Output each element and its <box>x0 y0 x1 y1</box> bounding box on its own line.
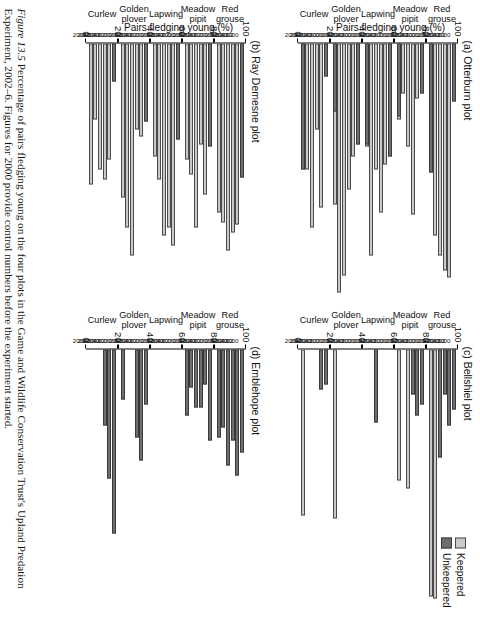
y-tick-c-100 <box>457 344 458 348</box>
bar-c-lapwing-2004-unkeepered <box>374 349 378 422</box>
group-separator-c-4 <box>426 344 427 348</box>
year-label-a-0-2006: 2006 <box>285 30 299 37</box>
group-label-b-red-grouse: Red grouse <box>216 4 244 23</box>
bar-a-meadow-pipit-2002-keepered <box>415 43 419 98</box>
group-label-a-curlew: Curlew <box>300 9 329 19</box>
year-label-d-2-2006: 2006 <box>137 336 151 343</box>
y-tick-a-0 <box>297 38 298 42</box>
group-separator-d-1 <box>118 344 119 348</box>
bar-a-red-grouse-2002-keepered <box>447 43 451 277</box>
bar-c-meadow-pipit-2006-keepered <box>397 349 401 480</box>
bar-b-curlew-2002-keepered <box>107 43 111 159</box>
group-label-a-lapwing: Lapwing <box>361 9 395 19</box>
bar-b-lapwing-2004-keepered <box>162 43 166 235</box>
legend: Keepered Unkeepered <box>438 537 466 607</box>
bar-b-golden-plover-2006-keepered <box>121 43 125 197</box>
y-tick-c-0 <box>297 344 298 348</box>
group-label-d-lapwing: Lapwing <box>149 315 183 325</box>
bar-a-curlew-2000-unkeepered <box>324 43 328 76</box>
group-separator-b-3 <box>182 38 183 42</box>
bar-c-red-grouse-2000-unkeepered <box>452 349 456 409</box>
bar-b-red-grouse-2006-keepered <box>217 43 221 212</box>
bar-a-golden-plover-2005-keepered <box>337 43 341 292</box>
bar-b-lapwing-2000-unkeepered <box>176 43 180 139</box>
panel-title-c: (c) Bellshiel plot <box>462 346 474 420</box>
bar-b-golden-plover-2003-keepered <box>135 43 139 129</box>
bar-d-meadow-pipit-2000-unkeepered <box>208 349 212 440</box>
bar-a-lapwing-2004-keepered <box>374 43 378 169</box>
bar-c-curlew-2000-unkeepered <box>324 349 328 384</box>
bar-b-golden-plover-2002-keepered <box>139 43 143 136</box>
group-label-b-lapwing: Lapwing <box>149 9 183 19</box>
bar-d-curlew-2003-unkeepered <box>103 349 107 425</box>
legend-swatch-unkeepered <box>441 537 452 548</box>
panel-ray-demesne: (b) Ray Demesne plotPairs fledging young… <box>55 6 262 303</box>
bar-b-curlew-2003-keepered <box>103 43 107 179</box>
bar-a-red-grouse-2003-keepered <box>443 43 447 270</box>
bar-d-red-grouse-2004-unkeepered <box>226 349 230 465</box>
bar-d-meadow-pipit-2005-unkeepered <box>189 349 193 387</box>
bar-a-red-grouse-2005-keepered <box>433 43 437 235</box>
bar-d-red-grouse-2005-unkeepered <box>221 349 225 427</box>
figure-number: Figure 13.5 <box>16 8 28 60</box>
panel-grid: (a) Otterburn plotPairs fledging young (… <box>50 0 480 621</box>
figure-13-5: (a) Otterburn plotPairs fledging young (… <box>0 0 480 621</box>
bar-c-meadow-pipit-2002-unkeepered <box>415 349 419 415</box>
bar-a-golden-plover-2003-keepered <box>347 43 351 189</box>
group-label-d-curlew: Curlew <box>88 315 117 325</box>
bar-b-curlew-2005-keepered <box>93 43 97 119</box>
group-separator-a-2 <box>362 38 363 42</box>
group-separator-a-1 <box>330 38 331 42</box>
group-label-d-red-grouse: Red grouse <box>216 310 244 329</box>
bar-a-curlew-2005-keepered <box>305 43 309 169</box>
bar-a-meadow-pipit-2005-keepered <box>401 43 405 93</box>
legend-swatch-keepered <box>455 537 466 548</box>
bar-b-meadow-pipit-2004-keepered <box>194 43 198 227</box>
year-label-b-0-2006: 2006 <box>73 30 87 37</box>
bar-a-red-grouse-2000-unkeepered <box>452 43 456 101</box>
bar-a-meadow-pipit-2006-unkeepered <box>397 43 401 116</box>
group-label-d-meadow-pipit: Meadow pipit <box>181 310 216 329</box>
year-label-b-2-2006: 2006 <box>137 30 151 37</box>
group-label-a-meadow-pipit: Meadow pipit <box>393 4 428 23</box>
bar-c-red-grouse-2004-unkeepered <box>438 349 442 457</box>
bar-a-meadow-pipit-2004-keepered <box>406 43 410 146</box>
bar-b-golden-plover-2004-keepered <box>130 43 134 255</box>
bar-a-meadow-pipit-2000-unkeepered <box>420 43 424 93</box>
group-label-d-golden-plover: Golden plover <box>119 310 149 329</box>
group-label-b-curlew: Curlew <box>88 9 117 19</box>
bar-b-meadow-pipit-2002-keepered <box>203 43 207 194</box>
panel-title-a: (a) Otterburn plot <box>462 40 474 120</box>
y-tick-a-100 <box>457 38 458 42</box>
bar-d-meadow-pipit-2003-unkeepered <box>199 349 203 407</box>
bar-d-meadow-pipit-2006-unkeepered <box>185 349 189 415</box>
plot-area-b: 020406080100200020022003200420052006Curl… <box>86 42 246 294</box>
bar-b-lapwing-2002-keepered <box>171 43 175 245</box>
group-separator-b-4 <box>214 38 215 42</box>
plot-area-c: 020406080100200020022003200420052006Curl… <box>298 348 458 600</box>
bar-c-red-grouse-2006-keepered <box>429 349 433 596</box>
plot-area-a: 020406080100200020022003200420052006Curl… <box>298 42 458 294</box>
year-label-c-0-2006: 2006 <box>285 336 299 343</box>
bar-d-curlew-2002-unkeepered <box>107 349 111 478</box>
year-label-d-3-2006: 2006 <box>169 336 183 343</box>
group-label-c-golden-plover: Golden plover <box>331 310 361 329</box>
year-label-d-0-2006: 2006 <box>73 336 87 343</box>
group-label-c-curlew: Curlew <box>300 315 329 325</box>
bar-c-golden-plover-2006-keepered <box>333 349 337 518</box>
y-tick-b-0 <box>85 38 86 42</box>
bar-a-meadow-pipit-2003-keepered <box>411 43 415 214</box>
group-separator-d-2 <box>150 344 151 348</box>
bar-c-red-grouse-2005-keepered <box>433 349 437 598</box>
bar-d-golden-plover-2003-unkeepered <box>135 349 139 437</box>
plot-area-d: 020406080100200020022003200420052006Curl… <box>86 348 246 600</box>
group-label-c-red-grouse: Red grouse <box>428 310 456 329</box>
group-label-a-red-grouse: Red grouse <box>428 4 456 23</box>
bar-d-meadow-pipit-2002-unkeepered <box>203 349 207 384</box>
bar-d-red-grouse-2000-unkeepered <box>240 349 244 452</box>
year-label-d-4-2006: 2006 <box>201 336 215 343</box>
legend-label-keepered: Keepered <box>455 553 466 596</box>
year-label-b-3-2006: 2006 <box>169 30 183 37</box>
bar-b-curlew-2000-unkeepered <box>112 43 116 81</box>
figure-caption: Figure 13.5 Percentage of pairs fledging… <box>2 8 28 608</box>
